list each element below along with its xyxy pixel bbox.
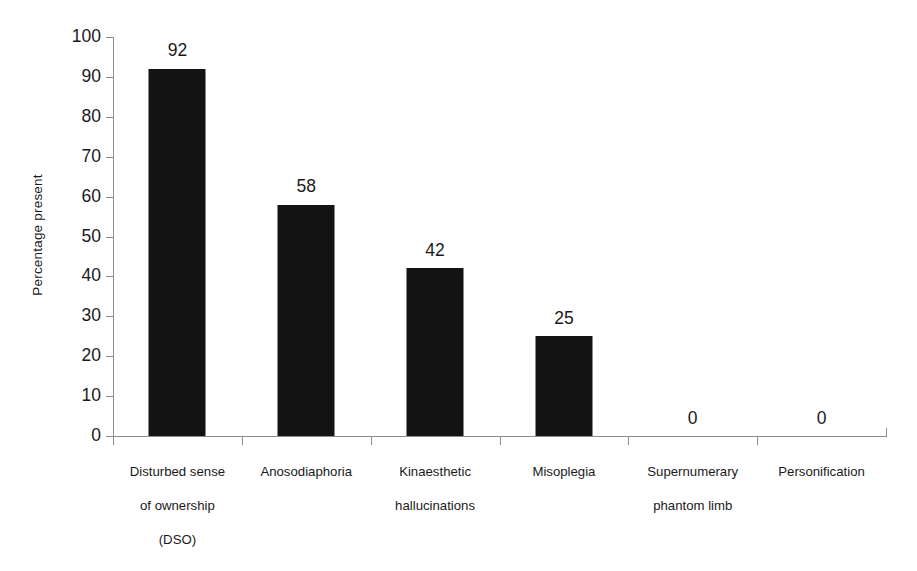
plot-area: 9258422500 xyxy=(113,37,886,436)
y-axis-tick xyxy=(106,197,113,198)
x-axis-tick xyxy=(242,437,243,445)
category-label-line: hallucinations xyxy=(371,489,500,523)
bar-value-label: 0 xyxy=(817,410,827,428)
bar-value-label: 58 xyxy=(297,178,316,196)
category-label-line: Supernumerary xyxy=(628,455,757,489)
y-axis-tick-label: 10 xyxy=(57,387,101,405)
category-label-line: Misoplegia xyxy=(500,455,629,489)
x-axis-tick xyxy=(371,437,372,445)
bar-slot: 58 xyxy=(242,37,371,436)
bar-chart-figure: Percentage present 100908070605040302010… xyxy=(0,0,917,571)
x-axis-category-label: Anosodiaphoria xyxy=(242,455,371,489)
x-axis-tick xyxy=(500,437,501,445)
y-axis-tick xyxy=(106,237,113,238)
y-axis-tick xyxy=(106,436,113,437)
bar[interactable] xyxy=(535,336,592,436)
bar-slot: 92 xyxy=(113,37,242,436)
bar-slot: 25 xyxy=(500,37,629,436)
y-axis-title: Percentage present xyxy=(30,35,50,435)
y-axis-tick-label: 60 xyxy=(57,188,101,206)
category-label-line: Kinaesthetic xyxy=(371,455,500,489)
y-axis-tick-label: 30 xyxy=(57,307,101,325)
y-axis-tick xyxy=(106,316,113,317)
category-label-line: of ownership xyxy=(113,489,242,523)
category-label-line: Disturbed sense xyxy=(113,455,242,489)
bar-value-label: 0 xyxy=(688,410,698,428)
bar-slot: 0 xyxy=(757,37,886,436)
x-axis-tick xyxy=(886,428,887,437)
y-axis-tick-label: 70 xyxy=(57,148,101,166)
y-axis-tick-label: 100 xyxy=(57,28,101,46)
category-label-line: Anosodiaphoria xyxy=(242,455,371,489)
y-axis-tick-label: 40 xyxy=(57,267,101,285)
x-axis-category-label: Disturbed senseof ownership(DSO) xyxy=(113,455,242,557)
category-label-line: phantom limb xyxy=(628,489,757,523)
y-axis-tick-label: 90 xyxy=(57,68,101,86)
bar-slot: 42 xyxy=(371,37,500,436)
x-axis-category-label: Kinaesthetichallucinations xyxy=(371,455,500,523)
y-axis-tick xyxy=(106,77,113,78)
y-axis-tick xyxy=(106,396,113,397)
x-axis-category-label: Supernumeraryphantom limb xyxy=(628,455,757,523)
y-axis-tick-label: 80 xyxy=(57,108,101,126)
x-axis-category-label: Personification xyxy=(757,455,886,489)
y-axis-tick xyxy=(106,117,113,118)
category-label-line: Personification xyxy=(757,455,886,489)
x-axis-category-label: Misoplegia xyxy=(500,455,629,489)
y-axis-tick-label: 0 xyxy=(57,427,101,445)
bar-value-label: 25 xyxy=(554,310,573,328)
x-axis-tick xyxy=(113,437,114,445)
y-axis-tick xyxy=(106,356,113,357)
y-axis-tick xyxy=(106,276,113,277)
y-axis-tick xyxy=(106,157,113,158)
bar[interactable] xyxy=(278,205,335,436)
category-label-line: (DSO) xyxy=(113,523,242,557)
bar-slot: 0 xyxy=(628,37,757,436)
x-axis-tick xyxy=(628,437,629,445)
bar[interactable] xyxy=(149,69,206,436)
y-axis-tick-label: 20 xyxy=(57,347,101,365)
x-axis-tick xyxy=(757,437,758,445)
bar[interactable] xyxy=(407,268,464,436)
bar-value-label: 92 xyxy=(168,42,187,60)
bar-value-label: 42 xyxy=(425,242,444,260)
y-axis-tick-label: 50 xyxy=(57,228,101,246)
